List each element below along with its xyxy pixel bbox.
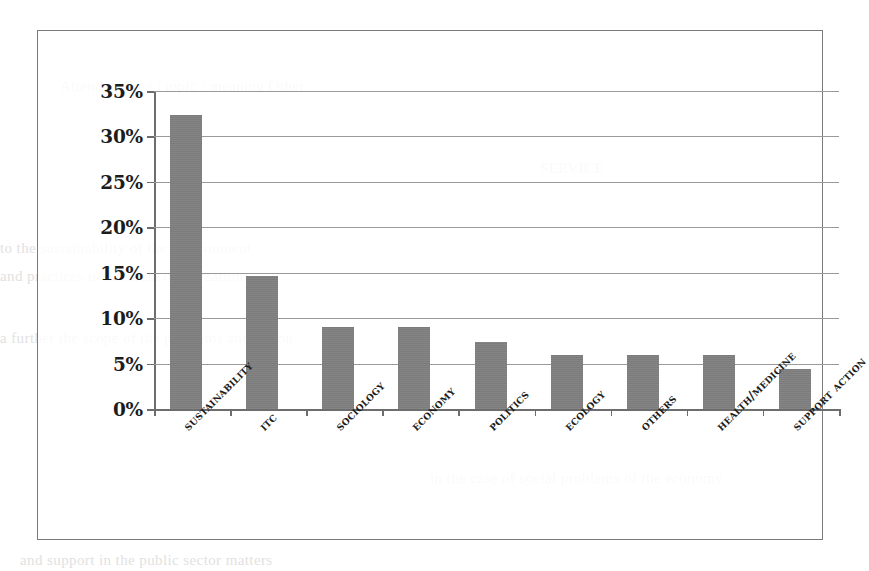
x-axis-tick [763,409,765,416]
y-axis-tick-label: 30% [100,126,143,147]
bar [551,355,583,410]
x-axis-tick [839,409,841,416]
x-axis-tick [687,409,689,416]
x-axis-tick [154,409,156,416]
x-axis-tick [458,409,460,416]
x-axis-tick [306,409,308,416]
x-axis-tick [382,409,384,416]
y-axis-tick-label: 25% [100,171,143,192]
y-axis-tick-label: 10% [100,308,143,329]
y-axis-tick-label: 5% [113,353,143,374]
y-axis-labels: 35%30%25%20%15%10%5%0% [38,91,143,410]
bar [475,342,507,409]
chart-figure: 35%30%25%20%15%10%5%0% SUSTAINABILITYITC… [37,30,823,540]
bar [170,115,202,409]
ghost-line: and support in the public sector matters [20,552,273,569]
gridline [154,136,839,137]
plot-area [154,91,839,409]
bar [322,327,354,409]
x-axis-tick-label: ITC [256,410,280,434]
y-axis-tick [147,182,154,184]
y-axis-tick [147,318,154,320]
bar [703,355,735,410]
y-axis-tick [147,91,154,93]
y-axis-tick [147,273,154,275]
bar [779,369,811,409]
bar [398,327,430,409]
gridline [154,227,839,228]
y-axis-tick-label: 15% [100,262,143,283]
bar [246,276,278,409]
bar [627,355,659,410]
x-axis-tick [611,409,613,416]
y-axis-tick-label: 0% [113,399,143,420]
gridline [154,91,839,92]
y-axis-tick [147,227,154,229]
y-axis-tick-label: 35% [100,81,143,102]
y-axis-tick [147,409,154,411]
gridline [154,182,839,183]
y-axis-tick [147,364,154,366]
x-axis-tick [230,409,232,416]
x-axis-tick [535,409,537,416]
y-axis-tick-label: 20% [100,217,143,238]
gridline [154,273,839,274]
y-axis-tick [147,136,154,138]
